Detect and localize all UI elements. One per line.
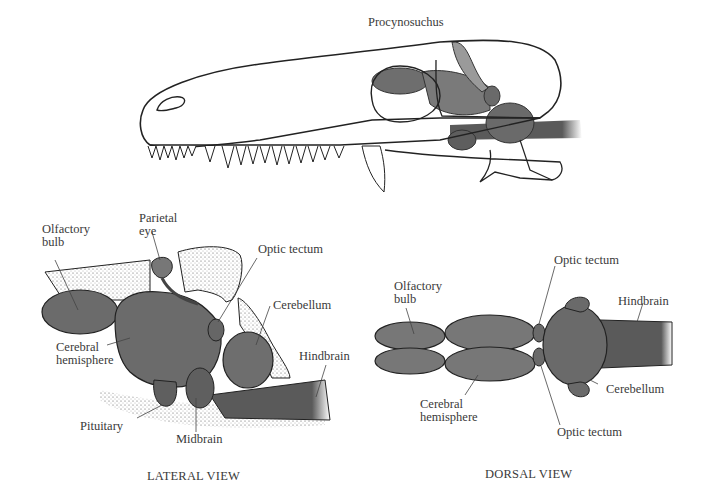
label-dorsal-cerebral-hemisphere: Cerebral hemisphere [420,398,478,424]
anatomy-illustration [0,0,717,487]
label-lateral-optic-tectum: Optic tectum [258,243,323,256]
figure-title: Procynosuchus [368,16,444,29]
lateral-optic-tectum [208,319,224,341]
label-dorsal-hindbrain: Hindbrain [618,295,669,308]
label-lateral-parietal-eye: Parietal eye [139,212,177,238]
skull-brain [372,42,582,150]
dorsal-cerebellum [543,305,607,385]
lateral-midbrain [186,368,214,408]
label-dorsal-cerebellum: Cerebellum [606,383,664,396]
dorsal-hindbrain [600,320,672,368]
teeth [148,146,385,192]
label-dorsal-optic-tectum-bottom: Optic tectum [557,426,622,439]
label-dorsal-olfactory-bulb: Olfactory bulb [394,280,442,306]
label-dorsal-optic-tectum-top: Optic tectum [554,254,619,267]
caption-lateral-view: LATERAL VIEW [147,469,240,484]
dorsal-cerebral-hemisphere-bottom [445,347,535,381]
lateral-cerebellum [223,332,273,388]
label-lateral-hindbrain: Hindbrain [299,350,350,363]
label-lateral-cerebellum: Cerebellum [273,299,331,312]
label-lateral-pituitary: Pituitary [80,420,123,433]
lateral-parietal-eye [152,257,173,278]
skull-drawing [140,40,582,192]
label-lateral-cerebral-hemisphere: Cerebral hemisphere [56,341,114,367]
dorsal-olfactory-bulb-bottom [375,348,445,374]
label-lateral-midbrain: Midbrain [176,433,223,446]
lateral-olfactory-bulb [42,290,118,334]
caption-dorsal-view: DORSAL VIEW [485,467,572,482]
dorsal-olfactory-bulb-top [375,322,445,350]
label-lateral-olfactory-bulb: Olfactory bulb [42,223,90,249]
lateral-view-drawing [42,232,330,432]
dorsal-cerebral-hemisphere-top [445,315,535,351]
